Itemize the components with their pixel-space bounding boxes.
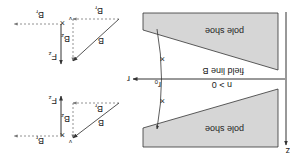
b-label: B [98,36,104,46]
cross-velocity-lower: × [60,130,65,140]
pole-shoe-lower-label: pole shoe [205,26,244,36]
br-label-lower: Br [95,103,103,114]
fz-label-lower: Fz [49,95,58,106]
b-label-lower: B [98,118,104,128]
br-label: Br [95,5,103,16]
z-axis: z [285,12,290,156]
bz-label: Bz [61,33,70,44]
magnet-field-diagram: z r pole shoe pole shoe n > 0 field line… [0,0,302,160]
pole-shoe-upper-label: pole shoe [205,124,244,134]
cross-mark-upper: × [160,96,165,106]
r-axis-label: r [127,74,130,84]
velocity-label: v [69,16,72,22]
bz-label-lower: Bz [61,113,70,124]
vector-diagram-field-upper: Br Bz B [61,5,119,61]
cross-mark-lower: × [160,54,165,64]
force-br-label: Br [36,9,44,20]
condition-label: n > 0 [212,80,232,90]
fz-label: Fz [49,51,58,62]
velocity-label-lower: v [69,139,72,145]
r0-label: r0 [154,79,161,90]
cross-velocity: × [60,18,65,28]
field-line-label: field line B [202,66,244,76]
z-axis-label: z [285,146,290,156]
vector-diagram-field-lower: Br Bz B [61,103,119,138]
force-br-label-lower: Br [36,135,44,146]
